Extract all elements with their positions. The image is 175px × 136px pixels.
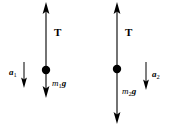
acceleration-arrow-mass-2 bbox=[143, 62, 149, 90]
tension-arrow-mass-1 bbox=[43, 2, 50, 70]
weight-label-mass-2-gravity: g bbox=[132, 86, 137, 96]
mass-point-2 bbox=[113, 65, 121, 73]
body-group-mass-2 bbox=[113, 2, 149, 124]
free-body-diagram-canvas bbox=[0, 0, 175, 136]
weight-label-mass-1: m1g bbox=[52, 79, 66, 90]
free-body-diagram-figure: T T m1g m2g a1 a2 bbox=[0, 0, 175, 136]
acceleration-label-mass-1-subscript: 1 bbox=[14, 71, 17, 78]
tension-arrow-mass-2 bbox=[114, 2, 121, 69]
mass-point-1 bbox=[42, 66, 50, 74]
body-group-mass-1 bbox=[21, 2, 50, 98]
weight-label-mass-1-gravity: g bbox=[62, 78, 67, 88]
acceleration-label-mass-2-subscript: 2 bbox=[157, 73, 160, 80]
tension-label-mass-1: T bbox=[54, 27, 61, 38]
weight-label-mass-2: m2g bbox=[122, 87, 136, 98]
acceleration-arrow-mass-1 bbox=[21, 62, 27, 88]
acceleration-label-mass-2: a2 bbox=[152, 70, 160, 81]
tension-label-mass-2: T bbox=[125, 27, 132, 38]
acceleration-label-mass-1: a1 bbox=[9, 68, 17, 79]
weight-arrow-mass-2 bbox=[114, 69, 121, 124]
